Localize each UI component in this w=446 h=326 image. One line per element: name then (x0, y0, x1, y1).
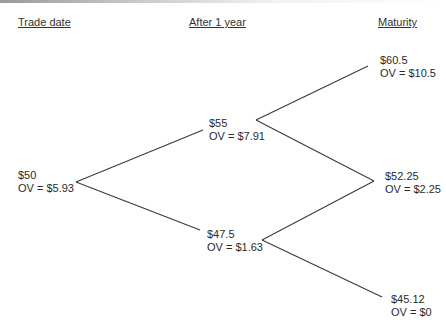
branch-up-down (256, 120, 374, 181)
branch-down-up (262, 181, 374, 240)
node-down-down-price: $45.12 (391, 293, 432, 306)
node-root: $50 OV = $5.93 (18, 169, 74, 195)
node-up-price: $55 (209, 117, 265, 130)
node-down-price: $47.5 (207, 228, 263, 241)
binomial-tree-lines (0, 0, 446, 326)
branch-root-down (76, 182, 200, 230)
node-up-down: $52.25 OV = $2.25 (385, 170, 441, 196)
branch-down-down (262, 240, 382, 297)
node-up-down-price: $52.25 (385, 170, 441, 183)
branch-root-up (76, 130, 203, 182)
node-down-down: $45.12 OV = $0 (391, 293, 432, 319)
node-up: $55 OV = $7.91 (209, 117, 265, 143)
node-down: $47.5 OV = $1.63 (207, 228, 263, 254)
node-up-up-ov: OV = $10.5 (380, 67, 436, 80)
node-root-price: $50 (18, 169, 74, 182)
node-up-up-price: $60.5 (380, 54, 436, 67)
node-root-ov: OV = $5.93 (18, 182, 74, 195)
node-up-ov: OV = $7.91 (209, 130, 265, 143)
branch-up-up (256, 66, 368, 120)
node-down-ov: OV = $1.63 (207, 241, 263, 254)
node-down-down-ov: OV = $0 (391, 306, 432, 319)
node-up-down-ov: OV = $2.25 (385, 183, 441, 196)
node-up-up: $60.5 OV = $10.5 (380, 54, 436, 80)
